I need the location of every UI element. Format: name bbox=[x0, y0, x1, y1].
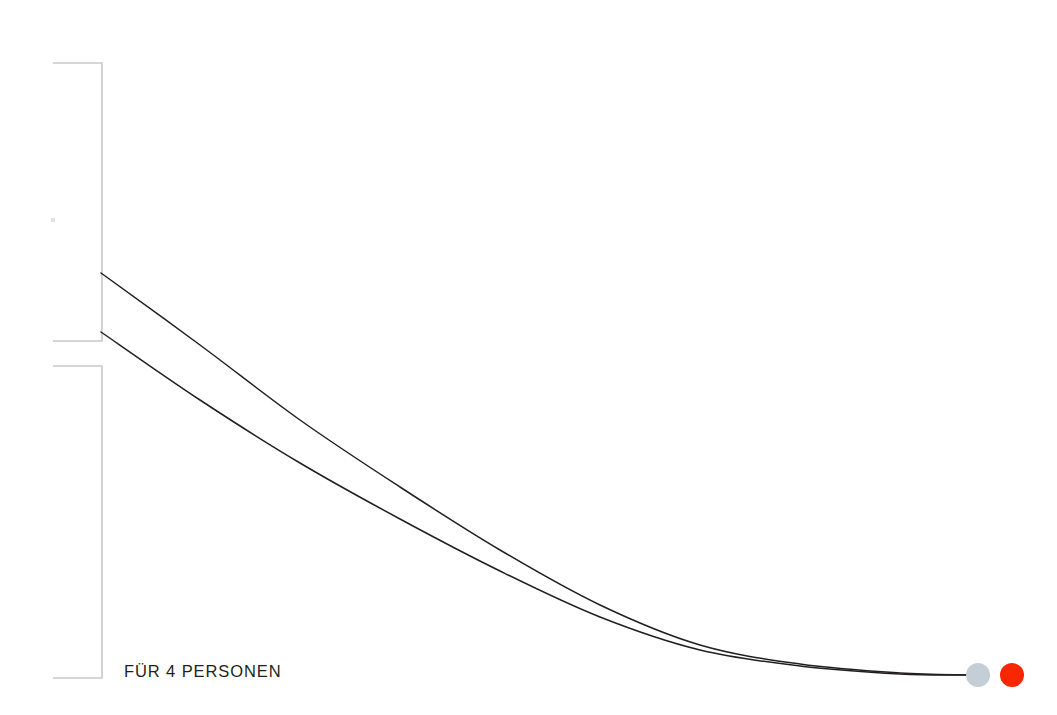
label-fuer-4-personen: FÜR 4 PERSONEN bbox=[124, 663, 281, 680]
marker-red-dot[interactable] bbox=[1000, 663, 1024, 687]
marker-gray-dot[interactable] bbox=[966, 663, 990, 687]
tick-mark bbox=[51, 218, 55, 222]
diagram-svg bbox=[0, 0, 1057, 715]
diagram-canvas-root: g FÜR 4 PERSONEN bbox=[0, 0, 1057, 715]
background-rect bbox=[0, 0, 1057, 715]
